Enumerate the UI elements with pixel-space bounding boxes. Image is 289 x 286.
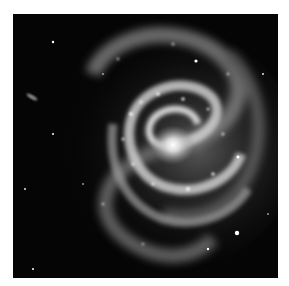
galaxy-core [151, 125, 195, 165]
galaxy-image [13, 14, 278, 278]
galaxy-illustration [13, 14, 278, 278]
